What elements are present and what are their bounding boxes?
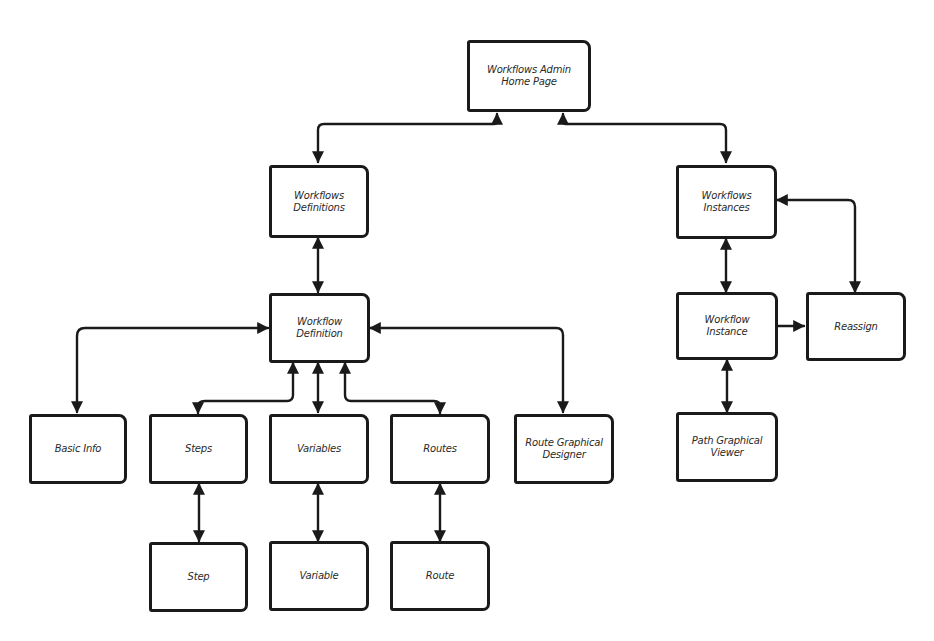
node-label: Variables [297, 443, 341, 455]
edge-home-instances [563, 114, 726, 162]
node-workflow-definition[interactable]: Workflow Definition [269, 293, 370, 363]
node-label: Path Graphical Viewer [687, 435, 767, 459]
node-label: Step [188, 571, 210, 583]
node-label: Basic Info [55, 443, 102, 455]
node-label: Workflows Admin Home Page [474, 64, 584, 88]
node-path-graphical-viewer[interactable]: Path Graphical Viewer [676, 412, 778, 482]
node-label: Steps [185, 443, 212, 455]
node-label: Workflows Instances [692, 190, 762, 214]
node-label: Route [426, 570, 454, 582]
edge-instances-reassign [777, 200, 855, 292]
node-steps[interactable]: Steps [149, 414, 248, 484]
diagram-canvas: Workflows Admin Home Page Workflows Defi… [0, 0, 934, 641]
node-reassign[interactable]: Reassign [806, 292, 906, 361]
edge-home-definitions [318, 114, 497, 162]
node-workflows-definitions[interactable]: Workflows Definitions [269, 165, 369, 238]
edge-definition-routes [345, 363, 440, 413]
node-label: Reassign [834, 321, 878, 333]
node-variables[interactable]: Variables [269, 414, 369, 484]
node-label: Routes [423, 443, 457, 455]
node-basic-info[interactable]: Basic Info [29, 414, 127, 484]
node-variable[interactable]: Variable [269, 541, 369, 611]
node-label: Workflows Definitions [284, 190, 354, 214]
edge-definition-steps [198, 363, 293, 413]
node-route[interactable]: Route [390, 541, 490, 611]
node-workflows-instances[interactable]: Workflows Instances [676, 165, 777, 239]
node-workflow-instance[interactable]: Workflow Instance [676, 292, 778, 360]
node-label: Workflow Instance [683, 314, 771, 338]
node-label: Workflow Definition [285, 316, 355, 340]
edge-definition-route-designer [370, 328, 563, 412]
edge-definition-basic-info [77, 328, 268, 412]
node-routes[interactable]: Routes [390, 414, 490, 484]
node-label: Variable [299, 570, 338, 582]
node-step[interactable]: Step [149, 542, 248, 612]
node-route-graphical-designer[interactable]: Route Graphical Designer [514, 414, 614, 484]
node-workflows-admin-home-page[interactable]: Workflows Admin Home Page [467, 40, 591, 112]
node-label: Route Graphical Designer [522, 437, 606, 461]
